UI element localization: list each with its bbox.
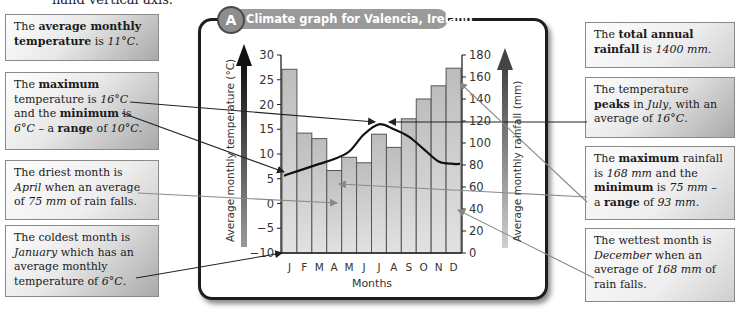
left-axis-tick-label: 0 xyxy=(267,197,274,211)
month-label: F xyxy=(301,261,307,273)
up-arrow-icon xyxy=(497,48,513,70)
month-label: S xyxy=(405,261,412,273)
month-label: M xyxy=(315,261,324,273)
rainfall-bar xyxy=(386,147,401,253)
left-axis-label: Average monthly temperature (°C) xyxy=(224,59,236,242)
month-label: M xyxy=(345,261,354,273)
rainfall-bars xyxy=(282,68,461,253)
rainfall-bar xyxy=(372,134,387,253)
rainfall-bar xyxy=(401,119,416,253)
right-axis-tick-label: 160 xyxy=(469,70,491,84)
left-axis-tick-label: −5 xyxy=(257,221,274,235)
left-axis-tick-label: 25 xyxy=(259,73,274,87)
right-axis-tick-label: 120 xyxy=(469,114,491,128)
month-label: A xyxy=(331,261,339,273)
rainfall-bar xyxy=(312,139,327,253)
rainfall-bar xyxy=(446,68,461,253)
month-label: J xyxy=(376,261,380,273)
left-axis-tick-label: 5 xyxy=(267,172,274,186)
month-label: N xyxy=(435,261,443,273)
month-label: D xyxy=(449,261,457,273)
month-label: O xyxy=(420,261,428,273)
right-axis-tick-label: 180 xyxy=(469,48,491,62)
up-arrow-icon xyxy=(236,44,252,66)
month-label: A xyxy=(390,261,398,273)
leader-line xyxy=(458,210,594,278)
right-axis-label: Average monthly rainfall (mm) xyxy=(511,81,523,242)
leader-line xyxy=(136,253,282,278)
left-axis-tick-label: 30 xyxy=(259,48,274,62)
rainfall-bar xyxy=(297,133,312,253)
right-axis-tick-label: 0 xyxy=(469,246,476,260)
rainfall-bar xyxy=(357,163,372,253)
left-axis-tick-label: 10 xyxy=(259,147,274,161)
rainfall-bar xyxy=(342,157,357,253)
left-axis-tick-label: 20 xyxy=(259,98,274,112)
leader-line xyxy=(130,102,375,122)
month-label: J xyxy=(361,261,365,273)
rainfall-bar xyxy=(327,171,342,254)
right-axis-tick-label: 100 xyxy=(469,136,491,150)
rainfall-bar xyxy=(431,86,446,253)
x-axis-label: Months xyxy=(352,277,392,290)
right-axis-tick-label: 80 xyxy=(469,158,484,172)
month-label: J xyxy=(287,261,291,273)
right-axis-tick-label: 40 xyxy=(469,202,484,216)
rainfall-bar xyxy=(282,69,297,253)
left-axis-tick-label: 15 xyxy=(259,122,274,136)
right-axis-tick-label: 20 xyxy=(469,224,484,238)
